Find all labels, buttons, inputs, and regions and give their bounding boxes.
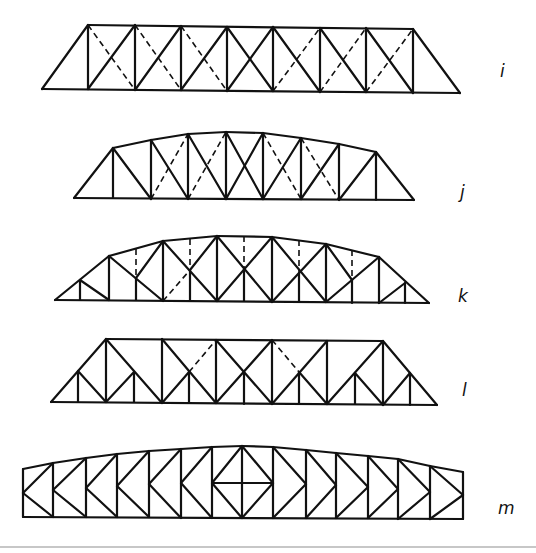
truss-member [273,447,306,484]
truss-member [74,148,113,198]
truss-member [368,456,398,459]
truss-member [430,495,463,519]
truss-member [188,132,226,134]
truss-types-figure: i j k l m [0,0,536,553]
truss-l: l [51,339,467,405]
truss-member [273,447,306,450]
truss-member [78,371,106,402]
truss-j-label: j [458,182,465,202]
truss-j-solid-members [74,132,414,200]
truss-member [106,339,383,341]
truss-member [242,446,273,447]
truss-member [181,447,212,449]
truss-member [336,487,368,518]
truss-member [181,483,212,518]
truss-member [336,453,368,487]
truss-member [306,450,336,453]
truss-member [151,134,188,140]
truss-member [212,483,242,518]
truss-member [149,449,181,451]
truss-k-label: k [458,286,469,306]
truss-member [263,133,301,138]
truss-j: j [74,132,465,202]
truss-member [339,144,376,152]
truss-member-dashed [189,340,216,372]
truss-m-label: m [498,498,515,518]
truss-member [273,484,306,518]
truss-member [23,493,53,517]
truss-member [242,483,273,518]
truss-member-dashed [272,340,299,372]
truss-l-dashed-members [189,340,299,372]
truss-member [117,451,149,486]
truss-member [55,300,429,303]
truss-m: m [23,446,515,519]
truss-member [212,446,242,483]
truss-member [42,89,460,93]
truss-member [299,372,327,404]
truss-member [336,453,368,456]
truss-member [86,454,117,488]
truss-member [376,152,414,200]
truss-member [368,489,398,518]
truss-member [181,447,212,483]
truss-m-solid-members [23,446,463,519]
truss-member [379,283,405,303]
truss-member [190,236,217,270]
truss-member [117,486,149,517]
truss-l-label: l [462,380,467,400]
truss-i-solid-members [42,25,460,93]
truss-member [117,451,149,454]
truss-member [212,446,242,447]
truss-member [113,140,151,148]
truss-member [226,132,263,133]
truss-member [149,484,181,518]
truss-member [306,450,336,485]
truss-k: k [55,236,469,306]
truss-member [162,372,189,403]
truss-member [306,485,336,518]
truss-member [398,492,430,519]
truss-member [106,372,134,402]
truss-member [53,490,86,517]
truss-member [42,25,88,89]
truss-member [339,152,376,200]
truss-member [86,454,117,458]
truss-member [113,148,151,199]
truss-member [368,456,398,489]
truss-l-solid-members [51,339,437,405]
truss-member [80,280,109,300]
truss-member [149,449,181,484]
truss-i-label: i [500,61,505,81]
truss-member [242,446,273,483]
truss-k-solid-members [55,236,429,303]
truss-member [413,29,460,93]
truss-member [355,373,383,405]
truss-member [383,373,410,405]
truss-member-dashed [163,270,190,301]
truss-member [86,488,117,517]
truss-i: i [42,25,505,93]
truss-member [74,198,414,200]
truss-member [301,138,339,144]
